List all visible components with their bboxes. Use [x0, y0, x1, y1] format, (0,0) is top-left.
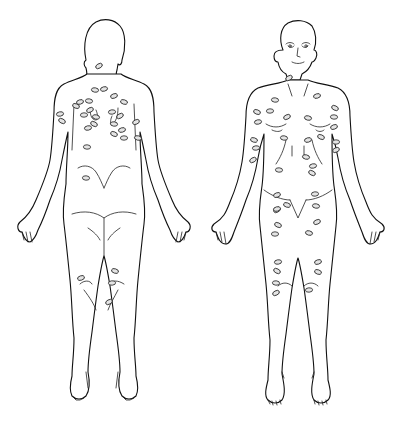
- anterior-head: [274, 21, 317, 80]
- lesion-marker: [110, 121, 118, 126]
- lesion-marker: [252, 145, 260, 150]
- lesion-marker: [305, 288, 312, 293]
- lesion-marker: [280, 135, 288, 140]
- lesion-marker: [105, 298, 113, 305]
- lesion-marker: [108, 109, 116, 114]
- posterior-head: [84, 20, 125, 78]
- lesion-marker: [82, 176, 89, 181]
- lesion-marker: [275, 168, 282, 173]
- body-map-figure: [0, 0, 393, 427]
- body-diagram: [0, 0, 393, 427]
- lesion-marker: [266, 109, 273, 114]
- lesion-marker: [271, 97, 279, 102]
- anterior-torso: [212, 80, 384, 403]
- lesion-marker: [271, 232, 278, 236]
- lesion-marker: [83, 145, 90, 150]
- lesion-marker: [330, 115, 337, 120]
- anterior-view: [212, 21, 384, 405]
- lesion-marker: [85, 98, 93, 103]
- lesion-marker: [80, 113, 87, 118]
- lesion-marker: [108, 280, 116, 285]
- posterior-view: [18, 20, 190, 400]
- lesion-marker: [311, 191, 319, 196]
- lesion-marker: [120, 136, 127, 141]
- lesion-marker: [332, 140, 339, 145]
- lesion-marker: [272, 280, 280, 285]
